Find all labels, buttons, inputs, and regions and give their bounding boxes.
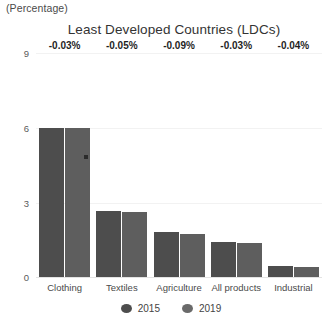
axis-baseline-0: 0 (36, 277, 322, 278)
legend-swatch-icon-2015 (121, 304, 132, 313)
unit-label: (Percentage) (6, 2, 68, 14)
data-label-clothing: -0.03% (49, 40, 81, 51)
bar-textiles-2019[interactable] (122, 212, 147, 277)
bar-textiles-2015[interactable] (96, 211, 121, 277)
x-axis-label-all-products: All products (208, 282, 265, 293)
data-label-industrial: -0.04% (278, 40, 310, 51)
bar-industrial-2015[interactable] (268, 266, 293, 277)
bar-all-products-2015[interactable] (211, 242, 236, 277)
bar-group-all-products[interactable]: -0.03% (208, 53, 265, 277)
x-axis-labels: Clothing Textiles Agriculture All produc… (36, 282, 322, 293)
x-axis-label-clothing: Clothing (36, 282, 93, 293)
chart-title: Least Developed Countries (LDCs) (0, 22, 328, 37)
y-axis-tick-2: 6 (24, 122, 29, 133)
legend-item-2019[interactable]: 2019 (182, 303, 221, 314)
chart-container: (Percentage) Least Developed Countries (… (0, 0, 328, 329)
data-label-agriculture: -0.09% (163, 40, 195, 51)
legend-item-2015[interactable]: 2015 (121, 303, 160, 314)
x-axis-label-textiles: Textiles (93, 282, 150, 293)
bar-clothing-2015[interactable] (39, 128, 64, 277)
chart-legend: 2015 2019 (0, 303, 328, 314)
bar-industrial-2019[interactable] (294, 267, 319, 277)
legend-label-2019: 2019 (199, 303, 221, 314)
bar-groups: -0.03% -0.05% -0.09% -0.03% -0.04% (36, 53, 322, 277)
y-axis-tick-0: 0 (24, 272, 29, 283)
legend-swatch-icon-2019 (182, 304, 193, 313)
bar-clothing-2019[interactable] (65, 128, 90, 277)
data-label-textiles: -0.05% (106, 40, 138, 51)
bar-all-products-2019[interactable] (237, 243, 262, 277)
bar-group-industrial[interactable]: -0.04% (265, 53, 322, 277)
x-axis-label-agriculture: Agriculture (150, 282, 207, 293)
bar-group-clothing[interactable]: -0.03% (36, 53, 93, 277)
y-axis-tick-1: 3 (24, 197, 29, 208)
bar-group-agriculture[interactable]: -0.09% (150, 53, 207, 277)
bar-agriculture-2015[interactable] (154, 232, 179, 277)
plot-area: 9 6 3 0 -0.03% -0.05% -0.09% (36, 53, 322, 278)
cursor-marker-icon (84, 155, 88, 159)
data-label-all-products: -0.03% (220, 40, 252, 51)
x-axis-label-industrial: Industrial (265, 282, 322, 293)
legend-label-2015: 2015 (138, 303, 160, 314)
y-axis-tick-3: 9 (24, 48, 29, 59)
bar-agriculture-2019[interactable] (180, 234, 205, 277)
bar-group-textiles[interactable]: -0.05% (93, 53, 150, 277)
